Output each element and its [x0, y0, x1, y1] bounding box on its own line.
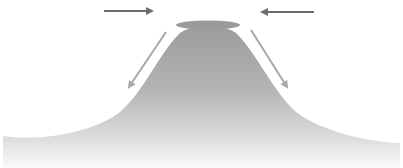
mound-diagram	[0, 0, 403, 168]
mound-cap	[176, 21, 240, 30]
mound-shape	[3, 26, 400, 168]
